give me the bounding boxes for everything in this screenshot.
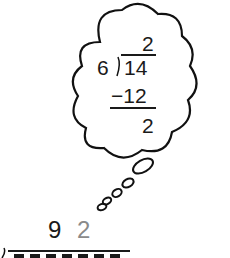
bubble-quotient: 2 — [142, 33, 154, 54]
main-quotient-digit-1: 9 — [48, 218, 61, 242]
bubble-subtraction-bar — [110, 107, 156, 109]
main-quotient-digit-2: 2 — [77, 218, 90, 242]
bubble-divisor: 6 — [97, 57, 109, 78]
main-dividend-cutoff — [14, 254, 126, 258]
bubble-subtraction: −12 — [111, 85, 147, 106]
thought-bubble-outline — [0, 0, 230, 258]
main-division-bar — [8, 250, 130, 252]
bubble-dividend: 14 — [124, 57, 147, 78]
bubble-remainder: 2 — [142, 115, 154, 136]
